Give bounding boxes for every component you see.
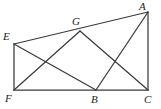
segment-E-A bbox=[14, 12, 148, 44]
segment-E-B bbox=[14, 44, 96, 90]
geometry-canvas bbox=[0, 0, 161, 109]
segment-F-G bbox=[14, 31, 80, 90]
point-label-C: C bbox=[144, 94, 151, 105]
point-label-F: F bbox=[5, 93, 12, 104]
geometry-figure: A E G F B C bbox=[0, 0, 161, 109]
point-label-B: B bbox=[91, 94, 98, 105]
segment-G-C bbox=[80, 31, 148, 90]
point-label-G: G bbox=[72, 16, 80, 27]
point-label-A: A bbox=[139, 1, 146, 12]
segment-layer bbox=[14, 12, 148, 90]
point-label-E: E bbox=[3, 31, 10, 42]
